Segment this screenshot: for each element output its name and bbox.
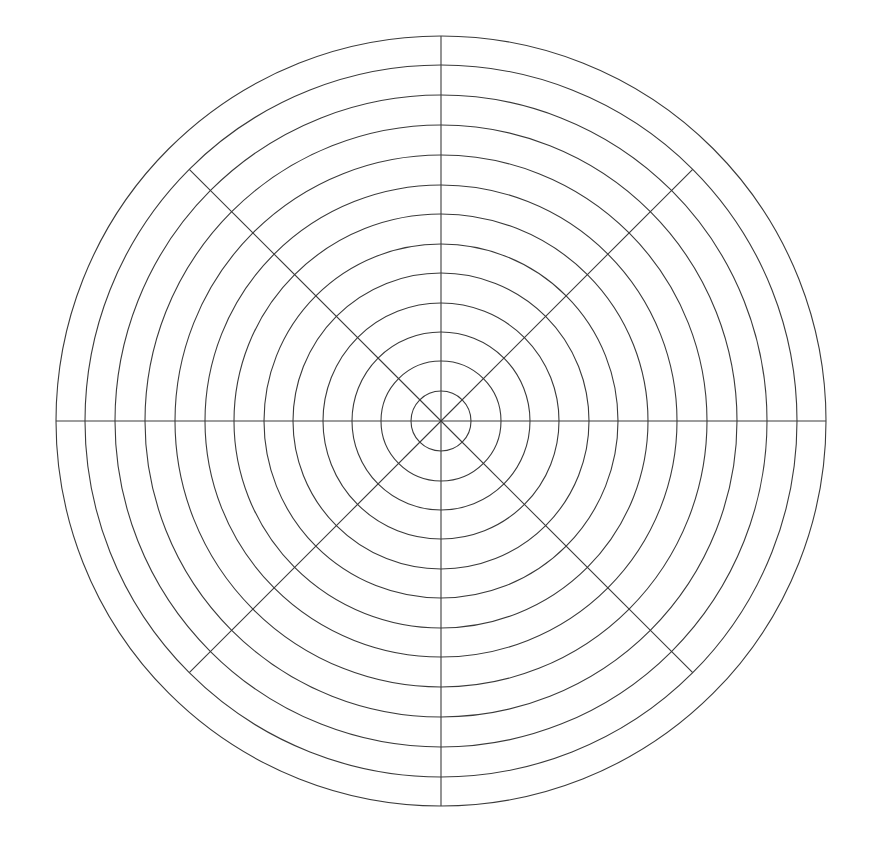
figure-background <box>0 0 872 846</box>
polar-grid-figure <box>0 0 872 846</box>
polar-grid-canvas <box>0 0 872 846</box>
